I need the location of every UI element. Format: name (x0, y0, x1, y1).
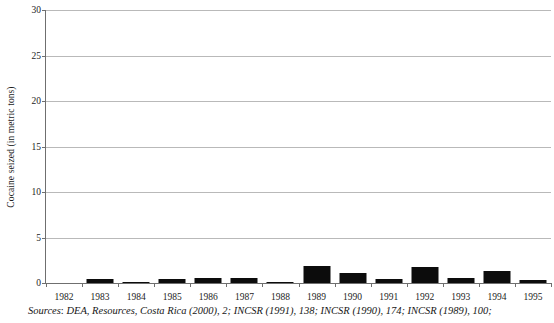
x-tick-label-1986: 1986 (199, 292, 218, 302)
x-tick-label-1993: 1993 (451, 292, 470, 302)
x-tick-mark (515, 283, 516, 287)
x-tick-label-1988: 1988 (271, 292, 290, 302)
y-tick-label-15: 15 (32, 142, 42, 152)
x-tick-mark (46, 283, 47, 287)
bar-slot (82, 10, 118, 283)
y-axis-title: Cocaine seized (in metric tons) (6, 67, 16, 227)
bar-1994[interactable] (483, 271, 510, 283)
bar-1985[interactable] (159, 279, 186, 283)
source-caption: Sources: DEA, Resources, Costa Rica (200… (28, 303, 548, 318)
bar-1988[interactable] (267, 282, 294, 283)
x-tick-label-1989: 1989 (307, 292, 326, 302)
bar-slot (190, 10, 226, 283)
x-tick-label-1994: 1994 (487, 292, 506, 302)
bar-1989[interactable] (303, 266, 330, 283)
bar-slot (262, 10, 298, 283)
x-tick-label-1984: 1984 (127, 292, 146, 302)
y-tick-label-5: 5 (36, 233, 41, 243)
x-tick-mark (226, 283, 227, 287)
x-tick-mark (479, 283, 480, 287)
caption-text: DEA, Resources, Costa Rica (2000), 2; IN… (64, 305, 492, 316)
bar-slot (515, 10, 551, 283)
bar-slot (46, 10, 82, 283)
x-tick-mark (407, 283, 408, 287)
x-tick-label-1990: 1990 (343, 292, 362, 302)
y-tick-label-10: 10 (32, 187, 42, 197)
bar-slot (118, 10, 154, 283)
x-tick-mark (551, 283, 552, 287)
bar-slot (154, 10, 190, 283)
x-tick-mark (299, 283, 300, 287)
y-tick-label-20: 20 (32, 96, 42, 106)
x-tick-label-1987: 1987 (235, 292, 254, 302)
bar-slot (226, 10, 262, 283)
y-tick-label-30: 30 (32, 5, 42, 15)
y-tick-label-0: 0 (36, 278, 41, 288)
bar-slot (335, 10, 371, 283)
x-tick-label-1995: 1995 (523, 292, 542, 302)
x-tick-label-1991: 1991 (379, 292, 398, 302)
bar-slot (371, 10, 407, 283)
plot-area: 051015202530 198219831984198519861987198… (45, 10, 550, 283)
x-tick-mark (443, 283, 444, 287)
x-tick-label-1983: 1983 (91, 292, 110, 302)
x-tick-mark (190, 283, 191, 287)
bar-slot (443, 10, 479, 283)
bar-1993[interactable] (447, 278, 474, 283)
bar-1983[interactable] (87, 279, 114, 283)
bar-slot (299, 10, 335, 283)
cocaine-seizures-bar-chart: Cocaine seized (in metric tons) 05101520… (0, 0, 554, 323)
bar-1992[interactable] (411, 267, 438, 283)
bar-1984[interactable] (123, 282, 150, 283)
bar-1987[interactable] (231, 278, 258, 283)
x-tick-mark (262, 283, 263, 287)
x-tick-mark (335, 283, 336, 287)
bar-1995[interactable] (519, 280, 546, 283)
bar-slot (479, 10, 515, 283)
x-tick-mark (371, 283, 372, 287)
bar-1986[interactable] (195, 278, 222, 283)
bar-slot (407, 10, 443, 283)
bars-group (46, 10, 551, 283)
x-tick-label-1982: 1982 (55, 292, 74, 302)
bar-1990[interactable] (339, 273, 366, 283)
y-tick-label-25: 25 (32, 51, 42, 61)
x-tick-label-1992: 1992 (415, 292, 434, 302)
caption-prefix: Sources (28, 305, 61, 316)
x-tick-mark (154, 283, 155, 287)
x-tick-mark (82, 283, 83, 287)
x-tick-label-1985: 1985 (163, 292, 182, 302)
x-tick-mark (118, 283, 119, 287)
bar-1991[interactable] (375, 279, 402, 283)
